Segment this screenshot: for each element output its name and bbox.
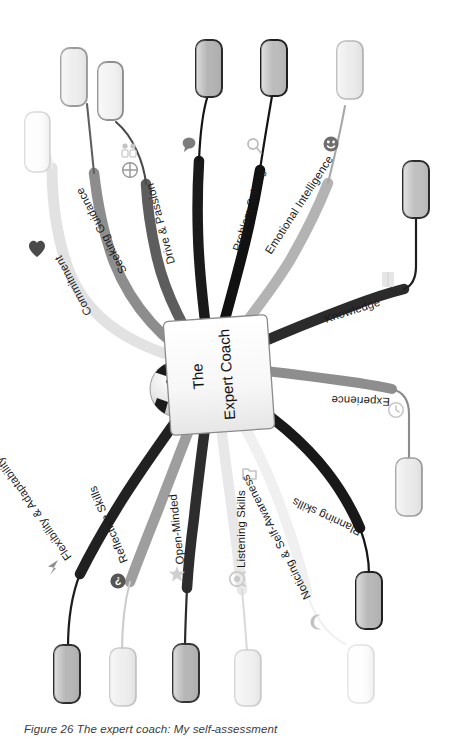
figure-caption: Figure 26 The expert coach: My self-asse…	[24, 723, 424, 735]
node-box-problem-solving[interactable]	[261, 40, 287, 96]
center-node[interactable]: The Expert Coach	[150, 315, 275, 436]
node-box-commitment[interactable]	[25, 112, 50, 172]
center-title-line1: The	[188, 363, 207, 390]
clock-icon	[389, 403, 404, 418]
branch-label-experience: Experience	[331, 394, 390, 408]
svg-text:?: ?	[114, 575, 121, 587]
figure-container: ? Commitment Seeking Guidance Drive & Pa…	[0, 0, 449, 751]
branch-label-knowledge: Knowledge	[323, 296, 382, 325]
node-box-drive-and-passion[interactable]	[98, 62, 123, 120]
heart-icon	[29, 241, 45, 257]
node-box-experience[interactable]	[396, 458, 422, 516]
node-box-noticing-and-self-awareness[interactable]	[348, 645, 374, 703]
moon-icon	[310, 614, 321, 629]
branch-label-flexibility-and-adaptability: Flexibility & Adaptability	[0, 455, 74, 563]
node-box-open-minded[interactable]	[173, 644, 199, 702]
people-group-icon	[122, 143, 136, 157]
mind-map-svg: ? Commitment Seeking Guidance Drive & Pa…	[0, 0, 449, 712]
node-box-flexibility-and-adaptability[interactable]	[54, 645, 80, 703]
smiley-face-icon	[324, 137, 339, 152]
node-box-emotional-intelligence[interactable]	[337, 41, 363, 99]
arrow-triangle-icon	[48, 560, 58, 575]
magnifier-icon	[248, 139, 261, 153]
node-box-seeking-guidance[interactable]	[61, 48, 87, 106]
branch-label-open-minded: Open-Minded	[167, 494, 186, 566]
speech-bubble-icon	[183, 137, 196, 152]
node-box-reflective-skills[interactable]	[110, 648, 136, 706]
book-icon	[382, 272, 394, 287]
node-box-listening-skills[interactable]	[235, 650, 261, 706]
branch-label-communication: Communication	[192, 172, 204, 253]
mind-map-canvas: ? Commitment Seeking Guidance Drive & Pa…	[0, 0, 449, 712]
branch-label-commitment: Commitment	[52, 253, 94, 318]
node-box-knowledge[interactable]	[403, 161, 429, 218]
target-crosshair-icon	[122, 162, 138, 178]
branch-label-listening-skills: Listening Skills	[235, 490, 247, 568]
question-mark-circle-icon: ?	[110, 573, 125, 588]
node-box-communication[interactable]	[196, 40, 222, 97]
node-box-planning-skills[interactable]	[356, 572, 382, 629]
